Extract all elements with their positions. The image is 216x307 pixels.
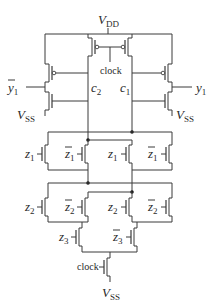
svg-text:z2: z2 [107,199,118,216]
circuit-diagram: VDD clock c2 c1 [0,0,216,307]
row-interconnect [88,170,132,192]
clock-gate-top: clock [99,47,122,76]
svg-text:z2: z2 [24,199,35,216]
vdd-label: VDD [98,12,119,29]
svg-text:z1: z1 [64,146,75,163]
svg-text:c2: c2 [91,80,101,97]
left-inverter: y1 VSS [6,34,88,124]
clock-label-bottom: clock [77,261,99,272]
right-inverter: y1 VSS [132,34,206,124]
svg-text:VSS: VSS [102,285,120,302]
pulldown-row-2: z2 z2 z2 z2 [24,181,172,222]
svg-text:z1: z1 [24,146,35,163]
precharge-pmos-right [121,34,132,60]
svg-text:z1: z1 [147,146,158,163]
pulldown-row-1: z1 z1 z1 z1 [24,130,172,170]
svg-text:c1: c1 [120,80,130,97]
svg-text:z2: z2 [147,199,158,216]
evaluate-nmos: clock VSS [77,252,120,302]
y1-label: y1 [194,80,206,97]
precharge-pmos-left [88,34,99,60]
clock-label-top: clock [100,65,122,76]
svg-text:VSS: VSS [176,107,194,124]
svg-text:VDD: VDD [98,12,119,29]
svg-text:z1: z1 [107,146,118,163]
svg-text:z2: z2 [64,199,75,216]
svg-text:z3: z3 [112,229,123,246]
pulldown-row-3: z3 z3 [58,222,137,252]
y1-bar-label: y1 [6,80,18,97]
node-c1: c1 [120,60,132,132]
vdd-rail [45,28,172,34]
svg-text:VSS: VSS [17,107,35,124]
svg-text:z3: z3 [58,229,69,246]
